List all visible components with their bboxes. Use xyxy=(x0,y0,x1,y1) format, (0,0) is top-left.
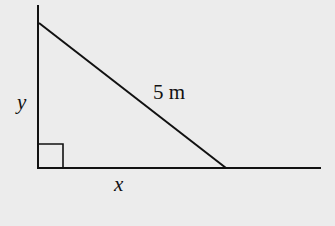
right-angle-marker xyxy=(38,144,63,168)
triangle-figure xyxy=(0,0,335,226)
hypotenuse-line xyxy=(39,23,226,168)
vertical-side-label: y xyxy=(17,92,26,113)
hypotenuse-label: 5 m xyxy=(153,82,185,103)
horizontal-side-label: x xyxy=(114,174,123,195)
triangle-diagram: y x 5 m xyxy=(0,0,335,226)
